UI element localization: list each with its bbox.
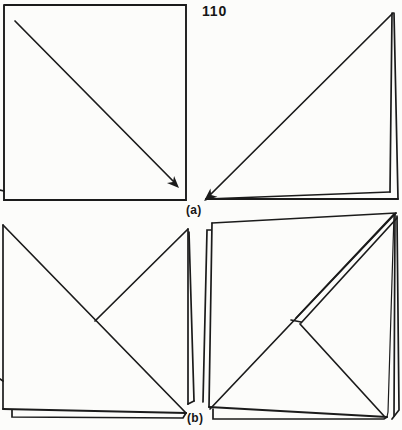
fold-line <box>95 229 188 321</box>
fold-line <box>387 214 394 417</box>
fold-line <box>206 192 390 199</box>
fig-b1-square-with-corner-flap <box>3 225 194 418</box>
fold-line <box>394 13 398 199</box>
step-label-b: (b) <box>187 412 203 424</box>
fig-a1-open-square-with-fold-arrow <box>4 5 186 200</box>
fold-line <box>213 409 387 419</box>
fold-line <box>3 409 186 413</box>
fold-line <box>188 401 194 404</box>
fig-a2-folded-triangle <box>200 13 398 205</box>
fig-b2-square-folded-layers <box>203 213 399 419</box>
fold-line <box>189 232 194 401</box>
fold-line <box>394 214 395 416</box>
fold-line <box>296 214 394 318</box>
fold-line <box>3 225 186 413</box>
fold-line <box>212 213 396 223</box>
fold-line <box>390 13 392 192</box>
book-page: 110 (a) (b) <box>0 0 402 430</box>
fold-line <box>207 13 393 198</box>
fold-line <box>301 218 397 323</box>
fold-line <box>15 21 176 184</box>
step-label-a: (a) <box>186 204 202 216</box>
fold-line <box>0 190 4 191</box>
fold-line <box>300 324 384 416</box>
fold-line <box>209 223 212 407</box>
page-number: 110 <box>202 4 227 18</box>
fold-line <box>209 407 387 417</box>
